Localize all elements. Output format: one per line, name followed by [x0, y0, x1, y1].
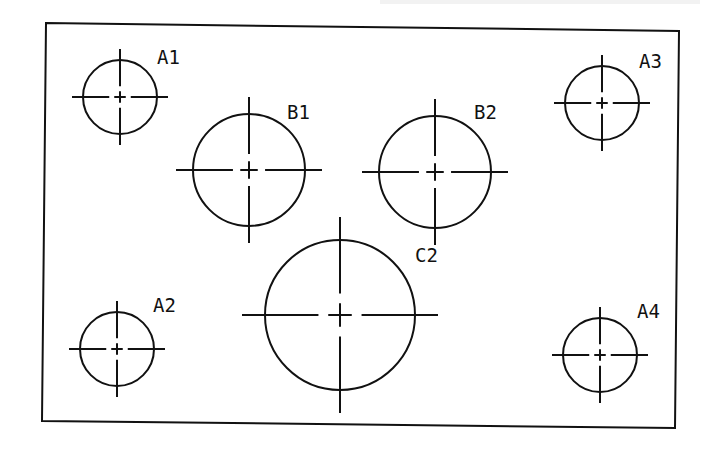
hole-a1: A1 [72, 46, 180, 145]
crosshair-icon [72, 49, 168, 145]
crosshair-icon [552, 307, 648, 403]
hole-c2: C2 [242, 217, 438, 413]
hole-label: B2 [474, 101, 497, 123]
hole-a3: A3 [554, 50, 662, 151]
crosshair-icon [554, 55, 650, 151]
hole-label: A3 [639, 50, 662, 72]
hole-label: A1 [157, 46, 180, 68]
hole-label: C2 [415, 244, 438, 266]
hole-label: A2 [153, 294, 176, 316]
holes-layer: A1A2A3A4B1B2C2 [69, 46, 662, 413]
crosshair-icon [69, 301, 165, 397]
crosshair-icon [242, 217, 438, 413]
hole-label: B1 [287, 101, 310, 123]
hole-layout-drawing: A1A2A3A4B1B2C2 [0, 0, 704, 453]
hole-b1: B1 [176, 97, 322, 243]
plate-outline [42, 23, 679, 428]
hole-b2: B2 [362, 99, 508, 245]
hole-a4: A4 [552, 300, 660, 403]
hole-a2: A2 [69, 294, 176, 397]
hole-label: A4 [637, 300, 660, 322]
